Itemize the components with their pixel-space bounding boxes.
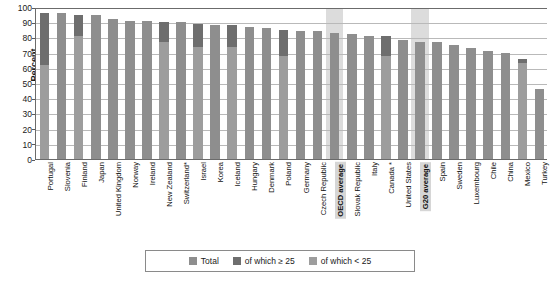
bar-segment-total xyxy=(501,53,511,159)
y-axis-tick-label: 10 xyxy=(12,141,32,149)
bar-segment-ge25 xyxy=(74,15,84,36)
x-axis-label: Hungary xyxy=(251,162,259,191)
bar-segment-total xyxy=(57,13,67,159)
bar[interactable] xyxy=(193,24,203,159)
bar[interactable] xyxy=(159,22,169,159)
y-axis-tick-label: 40 xyxy=(12,95,32,103)
bar[interactable] xyxy=(296,31,306,159)
x-axis-label: United Kingdom xyxy=(115,162,123,216)
bar-segment-lt25 xyxy=(227,47,237,159)
bar-segment-total xyxy=(313,31,323,159)
bar-segment-ge25 xyxy=(40,13,50,65)
x-axis-label: United States xyxy=(405,162,413,208)
bar-segment-total xyxy=(210,25,220,159)
x-axis-label-text: OECD average xyxy=(335,162,346,219)
x-axis-labels: PortugalSloveniaFinlandJapanUnited Kingd… xyxy=(35,162,547,244)
bar-segment-total xyxy=(330,33,340,159)
x-axis-label: OECD average xyxy=(337,162,345,219)
bar[interactable] xyxy=(262,28,272,159)
x-axis-label: G20 average xyxy=(422,162,430,211)
bars-layer xyxy=(36,8,547,159)
bar[interactable] xyxy=(415,42,425,159)
x-axis-label: Czech Republic xyxy=(320,162,328,215)
bar-segment-total xyxy=(91,15,101,159)
bar[interactable] xyxy=(142,21,152,159)
y-axis-tick-label: 60 xyxy=(12,65,32,73)
x-axis-label: Canada * xyxy=(388,162,396,194)
bar[interactable] xyxy=(108,19,118,159)
bar[interactable] xyxy=(279,30,289,159)
bar-segment-total xyxy=(347,34,357,159)
y-axis-ticks: 1009080706050403020100 xyxy=(12,8,32,160)
x-axis-label: Ireland xyxy=(149,162,157,185)
y-axis-tick-label: 30 xyxy=(12,110,32,118)
x-axis-label: Switzerland* xyxy=(183,162,191,204)
bar[interactable] xyxy=(432,42,442,159)
bar[interactable] xyxy=(91,15,101,159)
bar[interactable] xyxy=(518,59,528,159)
x-axis-label: Turkey xyxy=(541,162,549,185)
bar-segment-total xyxy=(125,21,135,159)
bar[interactable] xyxy=(57,13,67,159)
bar-segment-total xyxy=(449,45,459,159)
bar-segment-total xyxy=(364,36,374,159)
bar[interactable] xyxy=(176,22,186,159)
bar[interactable] xyxy=(501,53,511,159)
bar[interactable] xyxy=(125,21,135,159)
legend-label-ge25: of which ≥ 25 xyxy=(245,256,295,266)
bar-segment-lt25 xyxy=(159,42,169,159)
x-axis-label: Italy xyxy=(371,162,379,176)
bar-segment-total xyxy=(398,40,408,159)
bar-segment-total xyxy=(245,27,255,159)
x-axis-label: Sweden xyxy=(456,162,464,189)
y-axis-tick-label: 70 xyxy=(12,50,32,58)
bar[interactable] xyxy=(347,34,357,159)
x-axis-label: Japan xyxy=(98,162,106,183)
bar-segment-total xyxy=(108,19,118,159)
bar-segment-total xyxy=(535,89,545,159)
bar[interactable] xyxy=(227,25,237,159)
bar[interactable] xyxy=(364,36,374,159)
bar[interactable] xyxy=(74,15,84,159)
bar-segment-ge25 xyxy=(381,36,391,56)
x-axis-label: New Zealand xyxy=(166,162,174,207)
bar[interactable] xyxy=(535,89,545,159)
bar-segment-ge25 xyxy=(193,24,203,47)
legend-item-total[interactable]: Total xyxy=(189,256,219,266)
bar-segment-total xyxy=(296,31,306,159)
bar[interactable] xyxy=(40,13,50,159)
bar-segment-lt25 xyxy=(279,56,289,159)
bar-segment-lt25 xyxy=(518,63,528,159)
bar-segment-total xyxy=(142,21,152,159)
bar[interactable] xyxy=(245,27,255,159)
bar-segment-total xyxy=(432,42,442,159)
legend-label-total: Total xyxy=(201,256,219,266)
bar[interactable] xyxy=(449,45,459,159)
bar[interactable] xyxy=(313,31,323,159)
y-axis-tick-label: 100 xyxy=(12,4,32,12)
x-axis-label-text: G20 average xyxy=(420,162,431,211)
x-axis-label: Chile xyxy=(490,162,498,179)
bar[interactable] xyxy=(210,25,220,159)
bar-segment-lt25 xyxy=(40,65,50,159)
y-axis-tick-label: 90 xyxy=(12,19,32,27)
x-axis-label: Portugal xyxy=(47,162,55,190)
bar[interactable] xyxy=(330,33,340,159)
legend-label-lt25: of which < 25 xyxy=(321,256,371,266)
bar-segment-lt25 xyxy=(193,47,203,159)
legend-item-ge25[interactable]: of which ≥ 25 xyxy=(233,256,295,266)
bar[interactable] xyxy=(466,48,476,159)
bar[interactable] xyxy=(381,36,391,159)
chart-legend: Totalof which ≥ 25of which < 25 xyxy=(145,250,415,272)
y-axis-tick-label: 50 xyxy=(12,80,32,88)
y-axis-tick-label: 20 xyxy=(12,126,32,134)
x-axis-label: Slovak Republic xyxy=(354,162,362,216)
x-axis-label: Poland xyxy=(285,162,293,186)
x-axis-label: Mexico xyxy=(524,162,532,186)
bar[interactable] xyxy=(483,51,493,159)
x-axis-label: Spain xyxy=(439,162,447,181)
bar-segment-total xyxy=(483,51,493,159)
bar[interactable] xyxy=(398,40,408,159)
bar-segment-total xyxy=(415,42,425,159)
legend-item-lt25[interactable]: of which < 25 xyxy=(309,256,371,266)
